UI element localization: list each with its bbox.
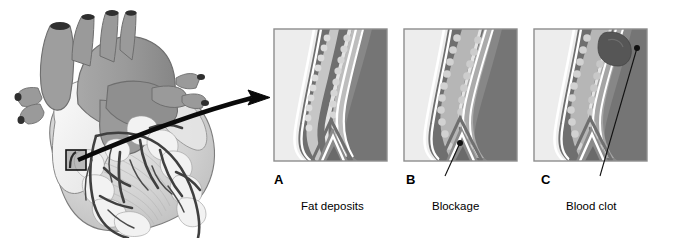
panel-b[interactable] [404,29,522,176]
panel-a-letter: A [274,172,283,187]
panel-a-caption-line1: Fat deposits [301,200,364,214]
pulmonary-branch-opening-lower [201,100,209,106]
vein-opening-upper [15,93,22,101]
vein-opening-lower [18,116,25,124]
brachiocephalic-opening [82,14,95,20]
panel-c[interactable] [534,29,652,176]
panel-a-caption: Fat deposits (plaque) [301,173,364,238]
panel-c-caption-line1: Blood clot [566,200,622,214]
panel-b-letter: B [406,172,415,187]
panel-b-caption-line1: Blockage [432,200,488,214]
panel-a-artery [274,29,392,161]
panel-b-artery [404,29,522,161]
pulmonary-branch-opening-upper [197,74,205,80]
pulmonary-branch-upper [176,74,200,89]
panel-b-caption: Blockage (occlusion) [432,173,488,238]
superior-vena-cava [40,26,73,110]
svc-opening [50,22,70,30]
panel-c-letter: C [541,172,550,187]
panel-a[interactable] [274,29,392,161]
panel-c-caption: Blood clot (thrombus) [566,173,622,238]
carotid-opening [106,10,119,16]
subclavian-opening [126,10,137,16]
